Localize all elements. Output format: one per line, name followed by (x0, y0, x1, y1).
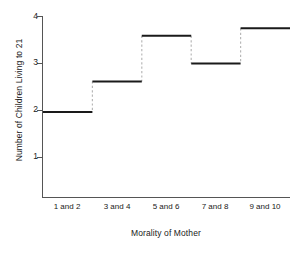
step-riser-group (92, 28, 240, 112)
y-tick-label-group: 4 3 2 1 (24, 0, 38, 255)
chart-figure: Number of Children Living to 21 4 3 2 1 … (0, 0, 303, 255)
y-tick-label: 2 (24, 105, 38, 114)
x-axis-title: Morality of Mother (42, 228, 290, 238)
step-tread-group (43, 28, 290, 112)
x-tick-label: 7 and 8 (202, 202, 229, 212)
x-tick-label: 1 and 2 (54, 202, 81, 212)
plot-area (0, 0, 303, 255)
y-tick-label: 4 (24, 12, 38, 21)
y-tick-label: 3 (24, 58, 38, 67)
x-tick-label: 3 and 4 (104, 202, 131, 212)
x-tick-label: 5 and 6 (153, 202, 180, 212)
y-tick-label: 1 (24, 152, 38, 161)
x-tick-label: 9 and 10 (249, 202, 280, 212)
